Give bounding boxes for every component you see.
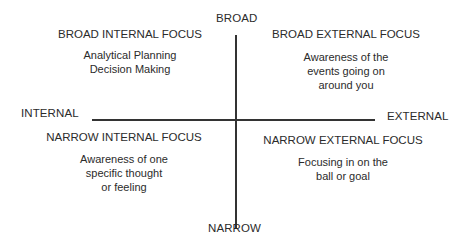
description-line: Focusing in on the bbox=[253, 155, 433, 169]
description-line: events going on bbox=[256, 64, 436, 78]
axis-label-narrow: NARROW bbox=[208, 222, 261, 234]
quadrant-narrow-internal: NARROW INTERNAL FOCUS Awareness of one s… bbox=[34, 131, 214, 194]
quadrant-description: Analytical Planning Decision Making bbox=[40, 48, 220, 76]
description-line: or feeling bbox=[34, 180, 214, 194]
description-line: Awareness of one bbox=[34, 152, 214, 166]
quadrant-broad-internal: BROAD INTERNAL FOCUS Analytical Planning… bbox=[40, 28, 220, 76]
horizontal-axis-line bbox=[92, 119, 375, 121]
quadrant-title: NARROW EXTERNAL FOCUS bbox=[253, 134, 433, 146]
description-line: Awareness of the bbox=[256, 50, 436, 64]
quadrant-title: BROAD INTERNAL FOCUS bbox=[40, 28, 220, 40]
description-line: around you bbox=[256, 78, 436, 92]
description-line: specific thought bbox=[34, 166, 214, 180]
axis-label-external: EXTERNAL bbox=[387, 110, 449, 122]
axis-label-broad: BROAD bbox=[216, 12, 257, 24]
quadrant-description: Awareness of one specific thought or fee… bbox=[34, 152, 214, 194]
vertical-axis-line bbox=[235, 35, 237, 228]
quadrant-narrow-external: NARROW EXTERNAL FOCUS Focusing in on the… bbox=[253, 134, 433, 183]
quadrant-title: NARROW INTERNAL FOCUS bbox=[34, 131, 214, 143]
quadrant-description: Focusing in on the ball or goal bbox=[253, 155, 433, 183]
description-line: ball or goal bbox=[253, 169, 433, 183]
quadrant-title: BROAD EXTERNAL FOCUS bbox=[256, 28, 436, 40]
description-line: Decision Making bbox=[40, 62, 220, 76]
description-line: Analytical Planning bbox=[40, 48, 220, 62]
quadrant-description: Awareness of the events going on around … bbox=[256, 50, 436, 92]
axis-label-internal: INTERNAL bbox=[21, 107, 79, 119]
quadrant-broad-external: BROAD EXTERNAL FOCUS Awareness of the ev… bbox=[256, 28, 436, 92]
